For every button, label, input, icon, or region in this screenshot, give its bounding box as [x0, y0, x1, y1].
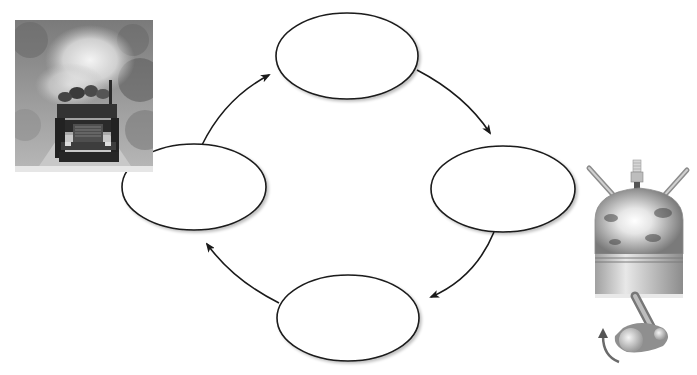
arrow-top-to-right	[417, 70, 490, 133]
cycle-node-bottom-label	[277, 275, 419, 361]
arrow-right-to-bottom	[431, 232, 494, 297]
arrow-left-to-top	[202, 75, 269, 145]
cycle-node-top-label	[276, 13, 418, 99]
truck-photo	[15, 20, 153, 172]
cycle-node-right-label	[431, 146, 575, 232]
engine-piston-illustration	[583, 158, 695, 368]
arrow-bottom-to-left	[207, 244, 279, 303]
